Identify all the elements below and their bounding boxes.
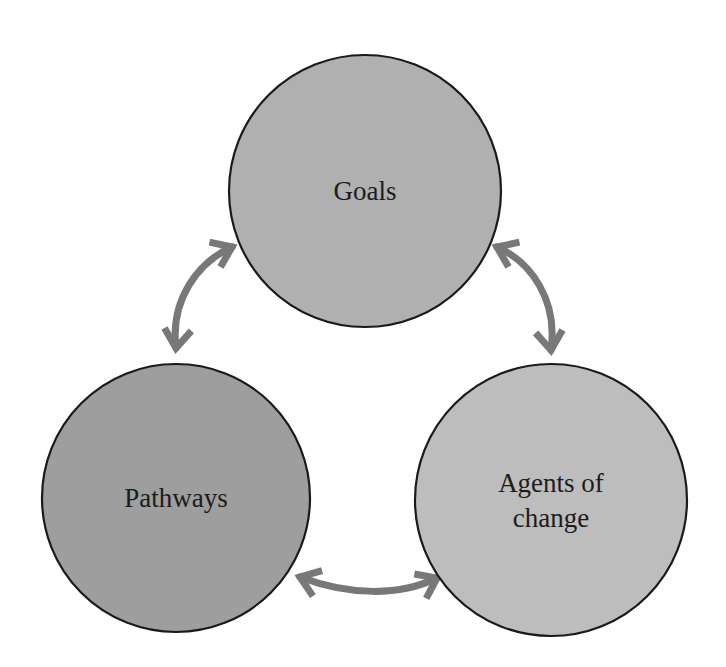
- node-label-pathways: Pathways: [124, 483, 228, 513]
- cycle-diagram: GoalsPathwaysAgents ofchange: [0, 0, 726, 667]
- node-label-line: change: [513, 503, 589, 533]
- node-pathways[interactable]: Pathways: [42, 364, 310, 632]
- node-label-goals: Goals: [334, 176, 397, 206]
- node-circle-agents-of-change[interactable]: [415, 364, 687, 636]
- node-label-line: Goals: [334, 176, 397, 206]
- connector-pathways-agents: [300, 571, 437, 599]
- nodes-layer: GoalsPathwaysAgents ofchange: [42, 55, 687, 636]
- connector-pathways-goals: [165, 242, 233, 348]
- node-label-line: Agents of: [498, 468, 604, 498]
- node-label-line: Pathways: [124, 483, 228, 513]
- node-goals[interactable]: Goals: [229, 55, 501, 327]
- connector-goals-agents: [497, 242, 563, 350]
- node-agents-of-change[interactable]: Agents ofchange: [415, 364, 687, 636]
- diagram-canvas: GoalsPathwaysAgents ofchange: [0, 0, 726, 667]
